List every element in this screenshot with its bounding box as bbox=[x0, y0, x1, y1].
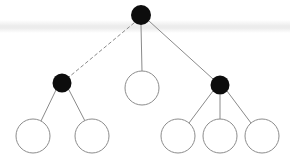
node-leaf-2[interactable] bbox=[75, 119, 109, 153]
node-leaf-4[interactable] bbox=[203, 119, 237, 153]
edge-n0-n1 bbox=[69, 23, 134, 77]
edge-n1-n4 bbox=[41, 90, 56, 121]
edge-n0-n2 bbox=[141, 25, 142, 71]
node-leaf-5[interactable] bbox=[245, 119, 279, 153]
edge-n1-n5 bbox=[69, 90, 85, 121]
node-layer bbox=[16, 5, 279, 153]
node-leaf-1[interactable] bbox=[16, 119, 50, 153]
node-left-branch[interactable] bbox=[53, 74, 72, 93]
edge-n3-n8 bbox=[227, 91, 251, 123]
tree-diagram-canvas bbox=[0, 0, 290, 161]
node-root[interactable] bbox=[131, 5, 151, 25]
node-right-branch[interactable] bbox=[211, 76, 230, 95]
node-leaf-3[interactable] bbox=[161, 119, 195, 153]
node-middle-leaf[interactable] bbox=[125, 71, 159, 105]
edge-n3-n6 bbox=[189, 91, 213, 123]
edge-n0-n3 bbox=[149, 21, 213, 79]
tree-graph bbox=[0, 0, 290, 161]
